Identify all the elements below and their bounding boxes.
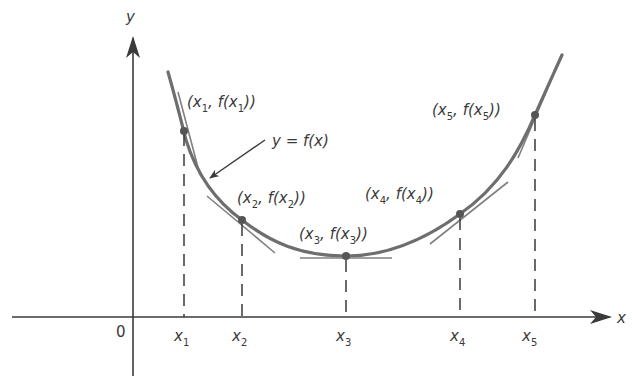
point-label-3: (x3, f(x3)) (299, 225, 368, 246)
tangent-line-4 (430, 182, 508, 244)
tick-label-4: x4 (449, 327, 465, 348)
origin-label: 0 (116, 323, 126, 341)
point-label-4: (x4, f(x4)) (365, 185, 434, 206)
point-label-5: (x5, f(x5)) (432, 101, 501, 122)
point-4 (456, 210, 464, 218)
curve-label-arrow (210, 140, 265, 178)
point-2 (238, 216, 246, 224)
curve-label: y = f(x) (271, 132, 329, 150)
tick-label-1: x1 (173, 327, 189, 348)
point-5 (531, 111, 539, 119)
tick-label-5: x5 (521, 327, 537, 348)
x-axis-label: x (616, 309, 626, 327)
point-1 (180, 127, 188, 135)
y-axis-label: y (125, 8, 136, 26)
point-label-2: (x2, f(x2)) (237, 189, 306, 210)
tangent-lines-diagram: x y 0 (x1, f(x1)) (x2, f(x2)) (x3, f(x3)… (0, 0, 632, 390)
point-label-1: (x1, f(x1)) (187, 93, 256, 114)
tick-label-3: x3 (335, 327, 351, 348)
tick-label-2: x2 (231, 327, 247, 348)
point-3 (342, 252, 350, 260)
